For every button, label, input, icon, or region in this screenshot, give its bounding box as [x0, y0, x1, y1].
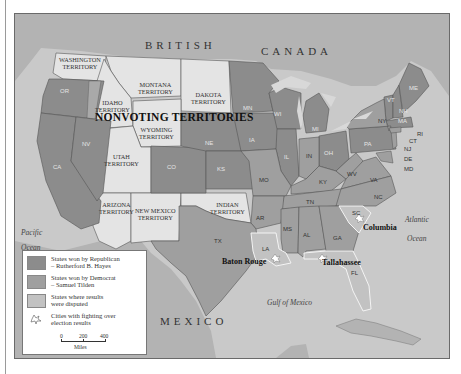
- country-label-british: BRITISH: [145, 40, 216, 51]
- state-label-ct: CT: [409, 138, 417, 144]
- city-label-columbia: Columbia: [363, 224, 397, 232]
- territory-wyoming: WYOMINGTERRITORY: [139, 126, 174, 140]
- state-label-wi: WI: [274, 111, 281, 117]
- state-label-al: AL: [303, 232, 310, 238]
- city-label-baton-rouge: Baton Rouge: [222, 258, 266, 266]
- election-map: BRITISH CANADA MEXICO Pacific Ocean Atla…: [14, 13, 450, 359]
- legend-item-fighting: Cities with fighting overelection result…: [27, 312, 116, 327]
- state-label-va: VA: [370, 177, 378, 183]
- territory-montana: MONTANATERRITORY: [138, 81, 173, 95]
- ocean-label-atlantic: Atlantic: [405, 216, 429, 224]
- ocean-label-pacific: Pacific: [21, 229, 42, 237]
- state-label-la: LA: [262, 246, 269, 252]
- country-label-mexico: MEXICO: [160, 316, 227, 327]
- state-label-nh: NH: [399, 108, 408, 114]
- state-label-vt: VT: [387, 97, 395, 103]
- territory-indian: INDIANTERRITORY: [210, 201, 245, 215]
- page-margin-rule: [5, 0, 6, 374]
- state-label-ia: IA: [249, 137, 255, 143]
- territory-dakota: DAKOTATERRITORY: [191, 91, 226, 105]
- legend-item-democrat: States won by Democrat– Samuel Tilden: [27, 274, 116, 289]
- state-label-ca: CA: [53, 164, 61, 170]
- legend-swatch-disputed: [27, 294, 46, 308]
- state-label-nj: NJ: [404, 146, 411, 152]
- state-label-ma: MA: [398, 118, 407, 124]
- legend-item-republican: States won by Republican– Rutherford B. …: [27, 255, 120, 270]
- country-label-canada: CANADA: [261, 46, 332, 57]
- state-label-ky: KY: [319, 179, 327, 185]
- map-legend: States won by Republican– Rutherford B. …: [22, 250, 147, 355]
- state-label-wv: WV: [347, 171, 357, 177]
- state-label-ms: MS: [283, 226, 292, 232]
- state-label-co: CO: [167, 164, 176, 170]
- territory-arizona: ARIZONATERRITORY: [99, 201, 134, 215]
- state-label-sc: SC: [352, 210, 360, 216]
- explosion-icon: [27, 312, 46, 326]
- state-label-ar: AR: [256, 215, 264, 221]
- state-label-ga: GA: [333, 235, 342, 241]
- state-label-il: IL: [284, 154, 289, 160]
- state-label-tx: TX: [214, 238, 222, 244]
- legend-swatch-democrat: [27, 275, 46, 289]
- state-label-pa: PA: [364, 141, 372, 147]
- city-label-tallahassee: Tallahassee: [322, 259, 361, 267]
- ocean-label-gulf: Gulf of Mexico: [267, 299, 312, 307]
- state-label-mo: MO: [259, 177, 269, 183]
- scale-bar: 0 200 400 Miles: [58, 333, 118, 351]
- state-label-nc: NC: [374, 194, 383, 200]
- ocean-label-atlantic-2: Ocean: [407, 235, 427, 243]
- territory-washington: WASHINGTONTERRITORY: [59, 56, 101, 70]
- state-label-mi: MI: [312, 126, 319, 132]
- state-label-ri: RI: [417, 131, 423, 137]
- state-label-ny: NY: [378, 118, 386, 124]
- territory-new-mexico: NEW MEXICOTERRITORY: [135, 207, 176, 221]
- state-label-nv: NV: [82, 141, 90, 147]
- map-title: NONVOTING TERRITORIES: [95, 112, 254, 124]
- state-label-mn: MN: [243, 105, 252, 111]
- state-label-oh: OH: [324, 150, 333, 156]
- state-label-fl: FL: [351, 270, 358, 276]
- state-label-ne: NE: [205, 140, 213, 146]
- state-label-tn: TN: [306, 199, 314, 205]
- state-label-de: DE: [404, 156, 412, 162]
- legend-swatch-republican: [27, 256, 46, 270]
- territory-utah: UTAHTERRITORY: [104, 153, 139, 167]
- state-label-me: ME: [409, 85, 418, 91]
- state-label-or: OR: [60, 88, 69, 94]
- legend-item-disputed: States where resultswere disputed: [27, 293, 103, 308]
- state-label-ks: KS: [217, 166, 225, 172]
- state-label-md: MD: [404, 166, 413, 172]
- state-label-in: IN: [306, 153, 312, 159]
